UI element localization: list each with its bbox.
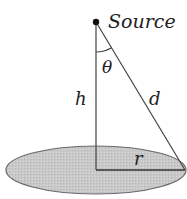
theta-label: θ	[102, 57, 112, 77]
source-disk-diagram: Source θ h d r	[0, 0, 187, 199]
radius-label: r	[134, 148, 144, 169]
angle-arc	[96, 48, 112, 52]
height-label: h	[75, 88, 87, 109]
source-label: Source	[108, 10, 176, 32]
source-point-icon	[93, 19, 99, 25]
distance-label: d	[149, 88, 161, 109]
